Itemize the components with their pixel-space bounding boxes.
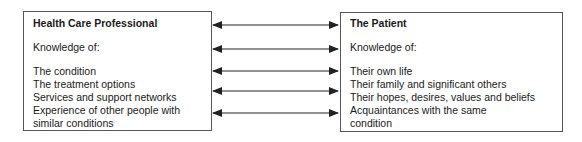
bidirectional-arrows bbox=[0, 0, 582, 142]
